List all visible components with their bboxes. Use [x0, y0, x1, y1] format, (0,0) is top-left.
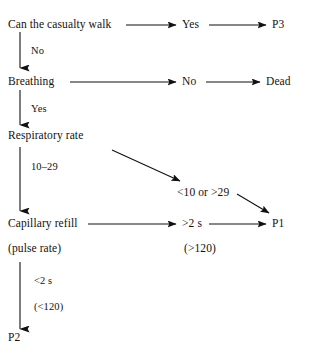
- edge-label-pulse-lt-120: (<120): [34, 302, 63, 313]
- node-dead: Dead: [266, 76, 291, 88]
- node-pulse-rate: (pulse rate): [8, 243, 61, 255]
- node-rate-out-of-range: <10 or >29: [177, 187, 229, 199]
- node-capillary-refill: Capillary refill: [8, 218, 78, 230]
- edge-label-refill-lt-2s: <2 s: [34, 276, 52, 287]
- node-p3: P3: [272, 19, 284, 31]
- node-refill-greater-2s: >2 s: [182, 218, 202, 230]
- node-breathing: Breathing: [8, 76, 54, 88]
- edge-label-rate-10-29: 10–29: [31, 162, 58, 173]
- arrow-out-of-range-to-p1: [237, 194, 269, 213]
- node-p2: P2: [8, 332, 20, 344]
- triage-flowchart: Can the casualty walk Yes P3 Breathing N…: [0, 0, 312, 363]
- node-respiratory-rate: Respiratory rate: [8, 130, 83, 142]
- node-yes-walk: Yes: [182, 19, 199, 31]
- node-pulse-greater-120: (>120): [184, 243, 216, 255]
- edge-label-no: No: [31, 46, 44, 57]
- node-can-the-casualty-walk: Can the casualty walk: [8, 19, 111, 31]
- node-p1: P1: [272, 218, 284, 230]
- arrow-respiratory-rate-to-out-of-range: [112, 150, 180, 181]
- edge-label-yes: Yes: [31, 104, 47, 115]
- node-no-breathing: No: [182, 76, 196, 88]
